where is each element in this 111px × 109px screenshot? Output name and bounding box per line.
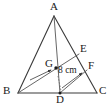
vertex-label-B: B xyxy=(3,85,10,96)
vertex-label-C: C xyxy=(99,85,106,96)
vertex-label-E: E xyxy=(80,43,87,54)
measurement-label: 8 cm xyxy=(58,66,77,76)
median-AD xyxy=(54,16,60,93)
vertex-label-G: G xyxy=(45,58,53,69)
vertex-label-A: A xyxy=(50,1,58,12)
vertex-label-F: F xyxy=(88,60,94,71)
geometry-figure: A B C D E F G 8 cm xyxy=(0,0,111,109)
side-AC xyxy=(54,16,97,93)
vertex-label-D: D xyxy=(56,94,64,105)
